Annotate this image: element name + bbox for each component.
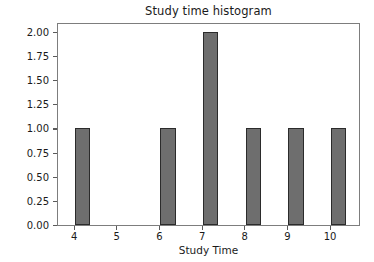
x-tick-label: 8 [225,231,265,242]
x-tick-mark [74,226,75,230]
y-axis-ticks: 0.000.250.500.751.001.251.501.752.00 [0,23,57,226]
x-tick-mark [244,226,245,230]
y-tick: 0.75 [0,148,57,160]
plot-area [57,23,360,226]
bar [331,128,346,225]
x-tick-mark [116,226,117,230]
y-tick-label: 0.50 [27,172,49,184]
x-axis-label: Study Time [57,244,360,256]
y-tick: 0.00 [0,220,57,232]
x-tick-mark [330,226,331,230]
bars-layer [58,24,359,225]
y-tick-label: 2.00 [27,27,49,39]
y-tick: 2.00 [0,27,57,39]
x-tick-label: 6 [139,231,179,242]
x-tick-label: 9 [267,231,307,242]
y-tick-label: 0.75 [27,148,49,160]
x-tick-mark [202,226,203,230]
x-axis-ticks: 45678910 [57,226,360,246]
x-tick-label: 7 [182,231,222,242]
y-tick: 0.25 [0,196,57,208]
bar [75,128,90,225]
y-tick-label: 0.00 [27,220,49,232]
x-tick-mark [159,226,160,230]
bar [160,128,175,225]
bar [246,128,261,225]
y-tick-label: 1.00 [27,123,49,135]
x-tick-label: 10 [310,231,350,242]
x-tick-label: 4 [54,231,94,242]
y-tick: 1.50 [0,75,57,87]
x-tick-label: 5 [97,231,137,242]
y-tick: 1.25 [0,99,57,111]
y-tick: 1.75 [0,51,57,63]
x-tick-mark [287,226,288,230]
chart-figure: Study time histogram Frequency 0.000.250… [0,0,374,262]
y-tick-label: 0.25 [27,196,49,208]
y-tick: 0.50 [0,172,57,184]
bar [288,128,303,225]
chart-title: Study time histogram [57,4,360,18]
y-tick-label: 1.25 [27,99,49,111]
bar [203,32,218,225]
y-tick: 1.00 [0,123,57,135]
y-tick-label: 1.75 [27,51,49,63]
y-tick-label: 1.50 [27,75,49,87]
